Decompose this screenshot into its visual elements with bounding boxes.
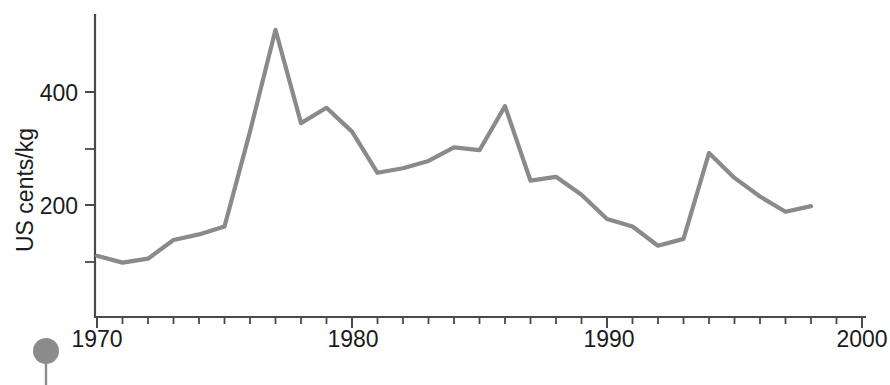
y-tick-label-200: 200 xyxy=(40,193,78,219)
x-tick-label-1990: 1990 xyxy=(583,326,634,352)
line-chart: 400 200 US cents/kg 1970 1980 1990 2000 xyxy=(0,0,890,385)
x-tick-label-1970: 1970 xyxy=(71,326,122,352)
y-axis-title: US cents/kg xyxy=(12,128,38,252)
x-tick-label-1980: 1980 xyxy=(327,326,378,352)
y-tick-marks xyxy=(85,92,95,262)
pin-marker xyxy=(33,338,59,385)
chart-page: 400 200 US cents/kg 1970 1980 1990 2000 xyxy=(0,0,890,385)
data-series-line xyxy=(97,30,811,263)
y-tick-label-400: 400 xyxy=(40,80,78,106)
x-tick-label-2000: 2000 xyxy=(836,326,887,352)
x-tick-marks xyxy=(97,317,862,328)
